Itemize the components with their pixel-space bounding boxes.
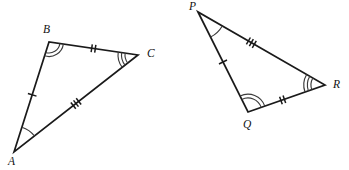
- vertex-b-label: B: [43, 23, 50, 35]
- vertex-r-arc-3: [304, 74, 307, 92]
- vertex-labels-layer: ABCPQR: [7, 0, 340, 167]
- vertex-p-label: P: [188, 0, 196, 12]
- vertex-r-label: R: [332, 78, 340, 90]
- side-bc-tick-2: [95, 45, 96, 53]
- angle-arcs-layer: [22, 26, 313, 136]
- vertex-p-arc-1: [211, 26, 223, 37]
- vertex-q-label: Q: [243, 118, 252, 130]
- vertex-a-label: A: [7, 155, 16, 167]
- triangle-pqr-outline: [198, 12, 325, 112]
- vertex-r-arc-2: [307, 76, 309, 91]
- vertex-r-arc-1: [311, 78, 313, 90]
- vertex-p-angle-arcs: [211, 26, 223, 37]
- vertex-a-arc-1: [22, 127, 35, 136]
- triangle-abc-outline: [14, 42, 138, 152]
- side-bc-tick-1: [91, 44, 92, 52]
- geometry-figure: ABCPQR: [0, 0, 349, 170]
- triangles-layer: [14, 12, 325, 152]
- vertex-a-angle-arcs: [22, 127, 35, 136]
- vertex-c-label: C: [147, 47, 155, 59]
- side-pr-ticks: [246, 38, 256, 48]
- vertex-c-arc-1: [125, 53, 128, 63]
- geometry-canvas: ABCPQR: [0, 0, 349, 170]
